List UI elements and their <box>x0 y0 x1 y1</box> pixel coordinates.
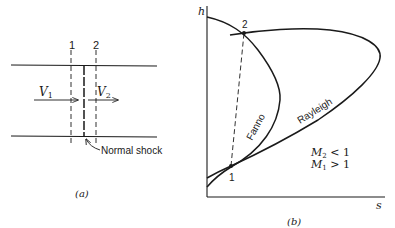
duct-top-wall <box>11 65 157 66</box>
panel-b-caption: (b) <box>287 216 301 227</box>
mach-condition-1: M1 > 1 <box>310 158 350 172</box>
rayleigh-curve <box>207 29 380 178</box>
velocity-1-label: V1 <box>39 85 53 100</box>
figure: 1 2 V1 V2 Normal shock (a) h s 1 2 Fanno… <box>0 0 395 228</box>
panel-a: 1 2 V1 V2 Normal shock (a) <box>11 39 163 199</box>
fanno-curve <box>207 17 280 187</box>
station-2-label: 2 <box>93 39 99 51</box>
point-1-label: 1 <box>229 172 235 183</box>
x-axis-label: s <box>376 199 382 212</box>
shock-jump-line <box>231 33 244 166</box>
velocity-2-label: V2 <box>97 85 111 100</box>
duct-bottom-wall <box>11 136 157 137</box>
state-point-1 <box>229 164 233 168</box>
station-1-label: 1 <box>69 39 75 51</box>
point-2-label: 2 <box>242 19 248 30</box>
panel-b: h s 1 2 Fanno Rayleigh M2 < 1 M1 > 1 (b) <box>198 5 385 227</box>
panel-a-caption: (a) <box>75 188 89 199</box>
shock-leader-line <box>86 139 100 150</box>
y-axis-label: h <box>198 5 205 18</box>
normal-shock-label: Normal shock <box>101 145 163 156</box>
state-point-2 <box>242 31 246 35</box>
fanno-label: Fanno <box>244 111 267 142</box>
